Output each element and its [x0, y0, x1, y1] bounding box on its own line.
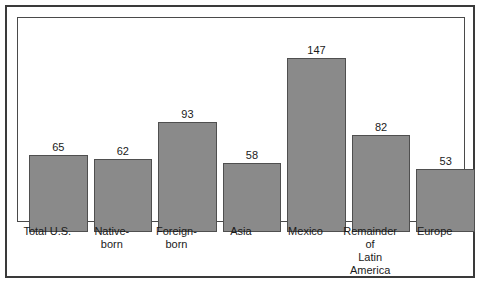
bar-column-remainder-latin-america[interactable]: 82 [352, 29, 411, 232]
bar-value-label: 58 [246, 149, 258, 161]
bar-value-label: 53 [440, 155, 452, 167]
x-axis-label-mexico: Mexico [276, 225, 335, 277]
bar-column-mexico[interactable]: 147 [287, 29, 346, 232]
x-axis-label-line: Total U.S. [18, 225, 77, 238]
x-axis-label-total-us: Total U.S. [18, 225, 77, 277]
bar-value-label: 147 [307, 44, 325, 56]
x-axis-label-line: Europe [405, 225, 464, 238]
bar-column-native-born[interactable]: 62 [94, 29, 153, 232]
bar-rect[interactable] [29, 155, 88, 232]
bar-value-label: 65 [52, 141, 64, 153]
x-axis-label-line: Latin America [341, 251, 400, 277]
bar-rect[interactable] [223, 163, 282, 232]
bar-rect[interactable] [287, 58, 346, 232]
x-axis-label-asia: Asia [212, 225, 271, 277]
x-axis-label-line: of [341, 238, 400, 251]
plot-area-frame: 65 62 93 58 147 82 [17, 17, 465, 222]
bar-series: 65 62 93 58 147 82 [29, 29, 475, 232]
bar-column-foreign-born[interactable]: 93 [158, 29, 217, 232]
x-axis-labels: Total U.S. Native-born Foreign-born Asia… [18, 225, 464, 277]
x-axis-label-line: Native- [83, 225, 142, 238]
bar-value-label: 62 [117, 145, 129, 157]
bar-rect[interactable] [352, 135, 411, 232]
x-axis-label-europe: Europe [405, 225, 464, 277]
bar-value-label: 82 [375, 121, 387, 133]
x-axis-label-line: born [147, 238, 206, 251]
x-axis-label-line: Remainder [341, 225, 400, 238]
bar-rect[interactable] [416, 169, 475, 232]
bar-value-label: 93 [181, 108, 193, 120]
x-axis-label-line: Mexico [276, 225, 335, 238]
x-axis-label-native-born: Native-born [83, 225, 142, 277]
bar-column-europe[interactable]: 53 [416, 29, 475, 232]
bar-rect[interactable] [94, 159, 153, 232]
bar-column-total-us[interactable]: 65 [29, 29, 88, 232]
bar-column-asia[interactable]: 58 [223, 29, 282, 232]
x-axis-label-foreign-born: Foreign-born [147, 225, 206, 277]
x-axis-label-line: born [83, 238, 142, 251]
figure-outer-frame: 65 62 93 58 147 82 [5, 5, 475, 278]
x-axis-label-remainder-latin-america: RemainderofLatin America [341, 225, 400, 277]
bar-rect[interactable] [158, 122, 217, 232]
x-axis-label-line: Asia [212, 225, 271, 238]
x-axis-label-line: Foreign- [147, 225, 206, 238]
